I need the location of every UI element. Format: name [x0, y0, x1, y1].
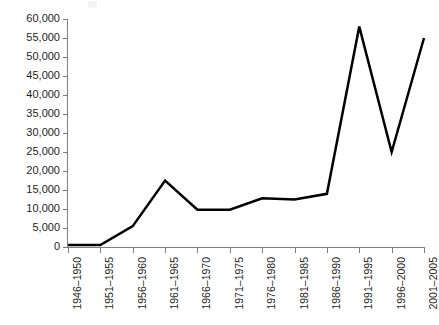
series-line [68, 27, 424, 246]
